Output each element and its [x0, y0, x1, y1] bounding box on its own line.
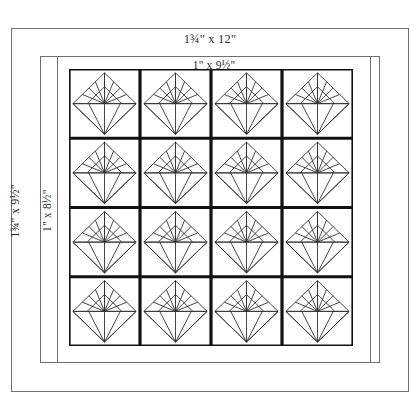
label-top-inner-border: 1" x 9½" [57, 60, 371, 72]
quilt-block [286, 73, 349, 134]
quilt-block [73, 73, 136, 134]
quilt-block [286, 211, 349, 272]
quilt-block [215, 142, 278, 203]
label-left-inner-border: 1" x 8½" [42, 151, 54, 271]
label-left-outer-border: 1¾" x 9½" [9, 151, 21, 271]
quilt-block [73, 142, 136, 203]
quilt-block-grid [69, 69, 353, 346]
quilt-block [144, 73, 207, 134]
quilt-block [215, 73, 278, 134]
quilt-block [215, 281, 278, 342]
quilt-block [286, 281, 349, 342]
quilt-block [73, 211, 136, 272]
quilt-block [286, 142, 349, 203]
quilt-grid-svg [69, 69, 353, 346]
quilt-block [144, 142, 207, 203]
quilt-block [144, 211, 207, 272]
quilt-diagram-page: 1¾" x 12" 1" x 9½" 1¾" x 9½" 1" x 8½" [0, 0, 420, 419]
quilt-block [144, 281, 207, 342]
quilt-block [73, 281, 136, 342]
label-top-outer-border: 1¾" x 12" [0, 33, 420, 46]
quilt-block [215, 211, 278, 272]
